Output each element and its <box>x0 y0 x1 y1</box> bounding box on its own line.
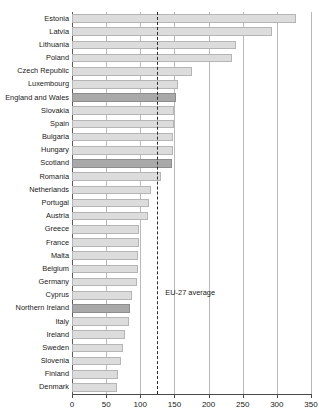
bar-germany <box>72 278 137 287</box>
cropped-title-fragment <box>24 0 144 5</box>
bar-row <box>72 80 311 89</box>
bar-row <box>72 278 311 287</box>
x-tick-label-250: 250 <box>236 400 249 410</box>
bar-row <box>72 27 311 36</box>
bar-denmark <box>72 383 117 392</box>
category-label-england-and-wales: England and Wales <box>0 94 69 102</box>
bar-row <box>72 357 311 366</box>
bar-sweden <box>72 344 123 353</box>
bar-row <box>72 251 311 260</box>
bar-chart: EstoniaLatviaLithuaniaPolandCzech Republ… <box>0 0 319 419</box>
bar-row <box>72 304 311 313</box>
bar-spain <box>72 120 174 129</box>
x-tick-300 <box>277 394 278 398</box>
bar-poland <box>72 54 232 63</box>
bar-row <box>72 344 311 353</box>
category-label-spain: Spain <box>0 120 69 128</box>
category-label-estonia: Estonia <box>0 15 69 23</box>
bar-romania <box>72 172 161 181</box>
category-label-luxembourg: Luxembourg <box>0 80 69 88</box>
bar-row <box>72 383 311 392</box>
bar-row <box>72 238 311 247</box>
bar-northern-ireland <box>72 304 130 313</box>
category-label-finland: Finland <box>0 370 69 378</box>
category-label-lithuania: Lithuania <box>0 41 69 49</box>
bar-latvia <box>72 27 272 36</box>
bar-row <box>72 370 311 379</box>
bar-estonia <box>72 14 296 23</box>
bar-luxembourg <box>72 80 178 89</box>
bar-slovakia <box>72 106 174 115</box>
bar-row <box>72 93 311 102</box>
x-tick-150 <box>174 394 175 398</box>
category-label-italy: Italy <box>0 318 69 326</box>
category-label-france: France <box>0 239 69 247</box>
bar-row <box>72 54 311 63</box>
bar-row <box>72 133 311 142</box>
x-tick-0 <box>72 394 73 398</box>
category-label-slovenia: Slovenia <box>0 357 69 365</box>
category-label-romania: Romania <box>0 173 69 181</box>
category-label-germany: Germany <box>0 278 69 286</box>
x-tick-label-150: 150 <box>168 400 181 410</box>
category-label-sweden: Sweden <box>0 344 69 352</box>
bar-greece <box>72 225 139 234</box>
x-tick-label-300: 300 <box>270 400 283 410</box>
bar-row <box>72 317 311 326</box>
x-tick-label-100: 100 <box>134 400 147 410</box>
bar-row <box>72 199 311 208</box>
category-label-ireland: Ireland <box>0 331 69 339</box>
plot-area <box>72 12 311 394</box>
bar-row <box>72 225 311 234</box>
category-label-czech-republic: Czech Republic <box>0 67 69 75</box>
x-tick-label-50: 50 <box>102 400 111 410</box>
bar-row <box>72 146 311 155</box>
bar-row <box>72 41 311 50</box>
x-tick-label-0: 0 <box>70 400 74 410</box>
category-label-latvia: Latvia <box>0 28 69 36</box>
x-tick-350 <box>311 394 312 398</box>
bar-row <box>72 120 311 129</box>
eu-27-average-line <box>157 12 158 394</box>
category-label-northern-ireland: Northern Ireland <box>0 304 69 312</box>
bar-row <box>72 330 311 339</box>
bar-italy <box>72 317 129 326</box>
bar-row <box>72 186 311 195</box>
category-label-slovakia: Slovakia <box>0 107 69 115</box>
eu-27-average-label: EU-27 average <box>165 288 215 297</box>
bar-portugal <box>72 199 149 208</box>
category-label-scotland: Scotland <box>0 159 69 167</box>
bar-slovenia <box>72 357 121 366</box>
bar-ireland <box>72 330 125 339</box>
category-label-cyprus: Cyprus <box>0 291 69 299</box>
category-label-bulgaria: Bulgaria <box>0 133 69 141</box>
x-tick-label-350: 350 <box>304 400 317 410</box>
x-tick-250 <box>243 394 244 398</box>
bar-row <box>72 67 311 76</box>
category-label-belgium: Belgium <box>0 265 69 273</box>
category-label-malta: Malta <box>0 252 69 260</box>
bar-czech-republic <box>72 67 192 76</box>
bar-row <box>72 159 311 168</box>
category-axis-labels: EstoniaLatviaLithuaniaPolandCzech Republ… <box>0 12 69 394</box>
category-label-greece: Greece <box>0 225 69 233</box>
bar-row <box>72 265 311 274</box>
category-label-poland: Poland <box>0 54 69 62</box>
bar-finland <box>72 370 118 379</box>
category-label-netherlands: Netherlands <box>0 186 69 194</box>
bar-cyprus <box>72 291 132 300</box>
bar-netherlands <box>72 186 151 195</box>
bar-lithuania <box>72 41 236 50</box>
category-label-hungary: Hungary <box>0 146 69 154</box>
category-label-austria: Austria <box>0 212 69 220</box>
bar-belgium <box>72 265 138 274</box>
bar-france <box>72 238 139 247</box>
bar-row <box>72 172 311 181</box>
bar-malta <box>72 251 138 260</box>
bar-austria <box>72 212 148 221</box>
category-label-denmark: Denmark <box>0 383 69 391</box>
x-tick-label-200: 200 <box>202 400 215 410</box>
gridline-350 <box>311 12 312 394</box>
x-tick-50 <box>106 394 107 398</box>
category-label-portugal: Portugal <box>0 199 69 207</box>
